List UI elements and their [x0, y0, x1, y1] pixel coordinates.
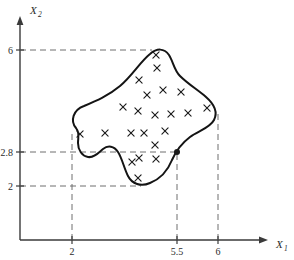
y-tick-label-2p8: 2.8 — [1, 147, 14, 158]
scatter-marker — [152, 142, 158, 148]
y-tick-label-2: 2 — [8, 181, 13, 192]
x-tick-label-6: 6 — [216, 246, 221, 257]
scatter-marker — [153, 156, 159, 162]
y-axis-title: X — [29, 4, 38, 16]
tick-labels-group: 6 2.8 2 2 5.5 6 — [1, 45, 221, 257]
x-tick-label-2: 2 — [70, 246, 75, 257]
region-outline — [73, 50, 216, 185]
scatter-marker — [168, 111, 174, 117]
highlighted-point — [174, 149, 180, 155]
x-axis-title-subscript: 1 — [284, 244, 288, 253]
scatter-marker — [129, 159, 135, 165]
scatter-marker — [128, 130, 134, 136]
scatter-marker — [120, 104, 126, 110]
scatter-marker — [135, 108, 141, 114]
x-axis-title: X — [275, 238, 284, 250]
scatter-marker — [178, 89, 184, 95]
scatter-marker — [160, 87, 166, 93]
dashed-guides-group — [20, 50, 218, 240]
scatter-marker — [204, 105, 210, 111]
scatter-marker — [185, 110, 191, 116]
scatter-marker — [102, 130, 108, 136]
x-axis-arrowhead — [259, 237, 268, 244]
scatter-marker — [152, 112, 158, 118]
scatter-marker — [154, 65, 160, 71]
y-axis-arrowhead — [17, 16, 24, 25]
scatter-marker — [162, 128, 168, 134]
y-tick-label-6: 6 — [8, 45, 13, 56]
scatter-marker — [141, 130, 147, 136]
figure-container: X 2 X 1 6 2.8 2 2 5. — [0, 0, 294, 260]
ticks-group — [16, 50, 218, 244]
y-axis-title-subscript: 2 — [38, 10, 42, 19]
scatter-marker — [153, 52, 159, 58]
scatter-marker — [144, 92, 150, 98]
scatter-markers-group — [77, 52, 210, 181]
scatter-region-plot: X 2 X 1 6 2.8 2 2 5. — [0, 0, 294, 260]
scatter-marker — [135, 175, 141, 181]
axis-titles-group: X 2 X 1 — [29, 4, 288, 253]
x-tick-label-5p5: 5.5 — [171, 246, 184, 257]
scatter-marker — [136, 77, 142, 83]
scatter-marker — [136, 155, 142, 161]
